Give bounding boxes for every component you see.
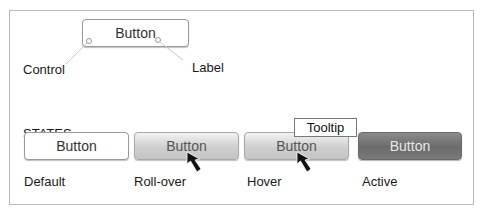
callout-lines	[0, 0, 484, 216]
active-state-button[interactable]: Button	[358, 132, 462, 160]
cursor-arrow-icon	[296, 151, 318, 175]
default-state-button[interactable]: Button	[24, 132, 129, 160]
label-callout: Label	[192, 60, 224, 75]
rollover-caption: Roll-over	[134, 174, 186, 189]
control-callout: Control	[23, 62, 65, 77]
default-button-label: Button	[56, 138, 96, 154]
tooltip-text: Tooltip	[307, 120, 345, 135]
hover-caption: Hover	[247, 174, 282, 189]
cursor-arrow-icon	[186, 151, 208, 175]
active-caption: Active	[362, 174, 397, 189]
active-button-label: Button	[390, 138, 430, 154]
default-caption: Default	[24, 174, 65, 189]
tooltip: Tooltip	[294, 118, 357, 137]
